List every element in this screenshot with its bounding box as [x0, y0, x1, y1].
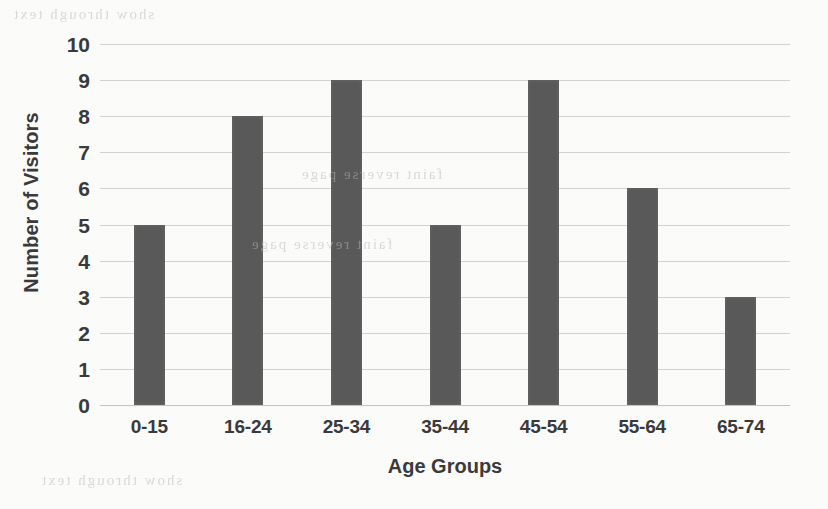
x-axis-tick-labels: 0-1516-2425-3435-4445-5455-6465-74 — [100, 416, 790, 438]
y-tick-label-5: 5 — [78, 214, 90, 235]
bar-slot — [593, 44, 692, 405]
y-tick-label-10: 10 — [67, 34, 90, 55]
y-tick-label-4: 4 — [78, 250, 90, 271]
plot-area — [100, 44, 790, 405]
bar-slot — [494, 44, 593, 405]
x-tick-label-16-24: 16-24 — [199, 416, 298, 438]
bar-slot — [199, 44, 298, 405]
x-tick-label-55-64: 55-64 — [593, 416, 692, 438]
y-tick-label-7: 7 — [78, 142, 90, 163]
bar-16-24 — [232, 116, 263, 405]
x-axis-title: Age Groups — [100, 455, 790, 478]
x-tick-label-65-74: 65-74 — [691, 416, 790, 438]
x-tick-label-45-54: 45-54 — [494, 416, 593, 438]
y-axis-title: Number of Visitors — [14, 0, 48, 405]
gridline-0 — [100, 405, 790, 406]
y-tick-label-6: 6 — [78, 178, 90, 199]
x-tick-label-0-15: 0-15 — [100, 416, 199, 438]
x-tick-label-25-34: 25-34 — [297, 416, 396, 438]
bar-0-15 — [134, 225, 165, 406]
y-tick-label-0: 0 — [78, 395, 90, 416]
y-axis-tick-labels: 109876543210 — [50, 44, 90, 405]
bar-slot — [100, 44, 199, 405]
bar-series — [100, 44, 790, 405]
y-tick-label-3: 3 — [78, 286, 90, 307]
bar-55-64 — [627, 188, 658, 405]
bar-slot — [396, 44, 495, 405]
bar-25-34 — [331, 80, 362, 405]
x-tick-label-35-44: 35-44 — [396, 416, 495, 438]
bar-chart: Number of Visitors 109876543210 0-1516-2… — [0, 0, 828, 509]
bar-slot — [691, 44, 790, 405]
bar-45-54 — [528, 80, 559, 405]
bar-slot — [297, 44, 396, 405]
bar-65-74 — [725, 297, 756, 405]
y-tick-label-1: 1 — [78, 358, 90, 379]
y-tick-label-9: 9 — [78, 70, 90, 91]
y-axis-title-label: Number of Visitors — [20, 112, 43, 292]
y-tick-label-2: 2 — [78, 322, 90, 343]
bar-35-44 — [430, 225, 461, 406]
y-tick-label-8: 8 — [78, 106, 90, 127]
